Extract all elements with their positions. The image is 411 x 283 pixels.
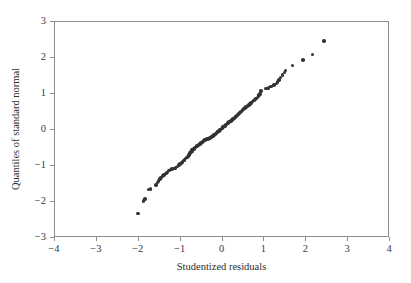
x-axis-tick (347, 237, 348, 241)
y-axis-tick (50, 201, 54, 202)
qq-plot-figure: −4−3−2−101234−3−2−10123 Studentized resi… (0, 0, 411, 283)
y-axis-tick-label: 1 (28, 87, 46, 99)
y-axis-tick (50, 165, 54, 166)
y-axis-tick (50, 129, 54, 130)
y-axis-tick-label: −2 (28, 195, 46, 207)
x-axis-tick (54, 237, 55, 241)
y-axis-tick-label: −3 (28, 231, 46, 243)
x-axis-label: Studentized residuals (54, 261, 389, 272)
plot-frame (54, 21, 389, 237)
x-axis-tick-label: 2 (290, 243, 320, 255)
y-axis-label: Quantiles of standard normal (10, 21, 24, 237)
y-axis-tick-label: −1 (28, 159, 46, 171)
y-axis-tick (50, 21, 54, 22)
x-axis-tick (138, 237, 139, 241)
x-axis-tick (305, 237, 306, 241)
x-axis-tick (96, 237, 97, 241)
x-axis-tick-label: 3 (332, 243, 362, 255)
x-axis-tick-label: −4 (39, 243, 69, 255)
x-axis-tick-label: −3 (81, 243, 111, 255)
y-axis-tick (50, 237, 54, 238)
x-axis-tick (180, 237, 181, 241)
x-axis-tick-label: 1 (248, 243, 278, 255)
x-axis-tick (389, 237, 390, 241)
x-axis-tick (263, 237, 264, 241)
x-axis-tick-label: −1 (165, 243, 195, 255)
x-axis-tick-label: −2 (123, 243, 153, 255)
y-axis-tick-label: 3 (28, 15, 46, 27)
x-axis-tick (222, 237, 223, 241)
y-axis-tick-label: 0 (28, 123, 46, 135)
x-axis-tick-label: 4 (374, 243, 404, 255)
x-axis-tick-label: 0 (207, 243, 237, 255)
y-axis-tick (50, 57, 54, 58)
y-axis-tick-label: 2 (28, 51, 46, 63)
y-axis-tick (50, 93, 54, 94)
